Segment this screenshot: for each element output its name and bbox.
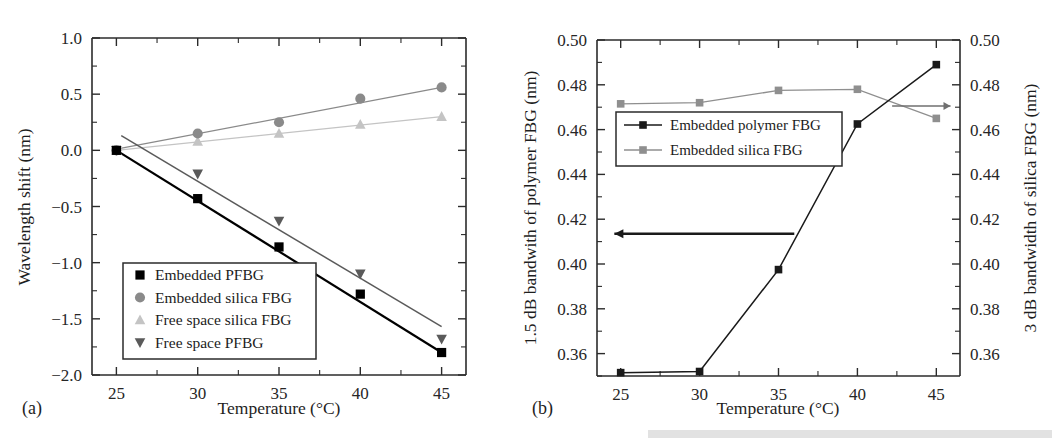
data-point [617,369,625,377]
x-tick-label: 30 [691,385,708,404]
data-point [193,194,202,203]
data-point [775,87,783,95]
series-line [621,65,937,373]
page-bottom-strip [648,430,1052,438]
panel-b-chart: 0.360.380.400.420.440.460.480.50 0.360.3… [520,0,1052,438]
panel-a-chart: −2.0−1.5−1.0−0.50.00.51.0 2530354045 Wav… [0,0,520,438]
legend-label: Free space silica FBG [155,311,291,328]
legend-label: Embedded silica FBG [155,289,292,306]
series-markers [617,61,940,377]
data-point [775,266,783,274]
y-tick-label: −1.5 [51,310,82,329]
x-tick-label: 30 [189,384,206,403]
y-tick-label: 0.0 [61,141,82,160]
data-point [112,146,121,155]
data-point [436,335,447,345]
data-point [192,170,203,180]
data-point [696,99,704,107]
legend-label: Embedded silica FBG [670,142,803,158]
data-point [356,290,365,299]
x-tick-label: 25 [612,385,629,404]
y-tick-label-right: 0.38 [970,300,1000,319]
y-tick-label: −2.0 [51,366,82,385]
data-point [436,111,447,121]
panel-a-label: (a) [22,398,42,419]
data-point [193,128,203,138]
data-point [355,119,366,129]
x-tick-label: 45 [433,384,450,403]
data-point [854,85,862,93]
legend-label: Embedded PFBG [155,266,264,283]
y-tick-label-left: 0.46 [557,121,587,140]
y-tick-label-right: 0.40 [970,255,1000,274]
legend-marker-0 [135,270,144,279]
data-point [355,94,365,104]
y-tick-label-left: 0.48 [557,76,587,95]
y-tick-label-right: 0.42 [970,210,1000,229]
y-tick-label-right: 0.50 [970,31,1000,50]
y-tick-label-left: 0.36 [557,345,587,364]
y-tick-label: −1.0 [51,254,82,273]
panel-b-x-axis-title: Temperature (°C) [717,398,840,418]
data-point [933,61,941,69]
left-arrow-to-polymer-axis-head [614,229,623,238]
data-point [437,348,446,357]
x-tick-label: 40 [352,384,369,403]
panel-a-y-axis-title: Wavelength shift (nm) [14,128,34,285]
x-tick-label: 40 [849,385,866,404]
panel-b-label: (b) [532,398,553,419]
data-point [355,270,366,280]
data-point [854,120,862,128]
y-tick-label-left: 0.42 [557,210,587,229]
legend-marker-1 [639,146,647,154]
data-point [274,217,285,227]
data-point [274,117,284,127]
legend-label: Free space PFBG [155,334,264,351]
y-tick-label-left: 0.50 [557,31,587,50]
figure-container: −2.0−1.5−1.0−0.50.00.51.0 2530354045 Wav… [0,0,1052,438]
y-tick-label-right: 0.36 [970,345,1000,364]
data-point [933,115,941,123]
y-tick-label-left: 0.44 [557,165,587,184]
y-tick-label: 0.5 [61,85,82,104]
panel-b-series [617,61,940,377]
panel-a-legend: Embedded PFBGEmbedded silica FBGFree spa… [123,263,316,359]
panel-b-legend: Embedded polymer FBGEmbedded silica FBG [616,112,842,166]
legend-marker-0 [639,121,647,129]
y-tick-label-right: 0.44 [970,165,1000,184]
data-point [696,368,704,376]
data-point [437,82,447,92]
data-point [274,242,283,251]
x-tick-label: 25 [108,384,125,403]
series-markers [111,82,446,155]
panel-a-x-axis-title: Temperature (°C) [218,398,341,418]
y-tick-label-right: 0.46 [970,121,1000,140]
panel-b-x-ticks: 2530354045 [612,40,945,404]
y-tick-label-right: 0.48 [970,76,1000,95]
data-point [617,100,625,108]
panel-b-y-axis-title-right: 3 dB bandwidth of silica FBG (nm) [1020,83,1040,332]
y-tick-label: 1.0 [61,29,82,48]
legend-marker-1 [135,292,145,302]
y-tick-label-left: 0.38 [557,300,587,319]
legend-label: Embedded polymer FBG [670,117,821,133]
panel-b-y-ticks-left: 0.360.380.400.420.440.460.480.50 [557,31,605,376]
x-tick-label: 45 [928,385,945,404]
y-tick-label: −0.5 [51,198,82,217]
y-tick-label-left: 0.40 [557,255,587,274]
right-arrow-to-silica-axis-head [944,102,951,110]
panel-b-y-axis-title-left: 1.5 dB bandwith of polymer FBG (nm) [520,71,540,346]
